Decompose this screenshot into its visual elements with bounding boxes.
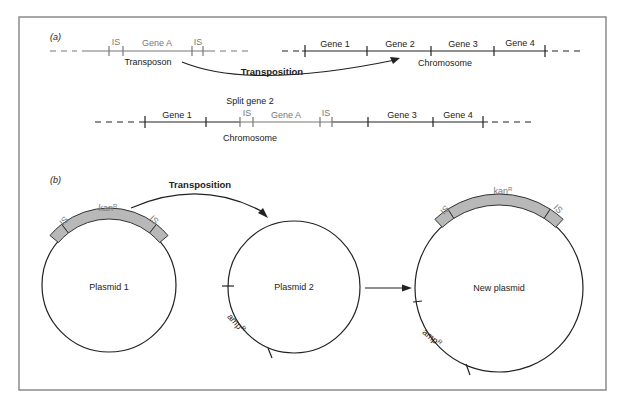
kan-resistance-band — [448, 194, 550, 218]
amp-boundary-tick — [413, 301, 422, 302]
transposon: IS Gene A IS Transposon — [50, 37, 248, 67]
curved-arrow-line — [131, 194, 263, 212]
plasmid-2: Plasmid 2 ampR — [222, 221, 360, 358]
transposon-gene-a-label: Gene A — [142, 38, 172, 48]
transposition-diagram: (a) IS Gene A IS Transposon Gene 1 Gene … — [0, 0, 623, 406]
transposition-arrow-a: Transposition — [182, 57, 400, 77]
arrowhead-icon — [402, 285, 412, 292]
panel-a-label: (a) — [50, 32, 61, 42]
result-is-left-label: IS — [243, 108, 252, 118]
plasmid-1-label: Plasmid 1 — [89, 282, 129, 292]
result-chromosome-caption: Chromosome — [223, 133, 277, 143]
result-arrow — [365, 285, 412, 292]
transposon-is-right-label: IS — [194, 37, 203, 47]
transposition-arrow-b: Transposition — [131, 179, 268, 218]
arrowhead-icon — [390, 57, 400, 64]
result-chromosome: Gene 1 IS Gene A IS Gene 3 Gene 4 Split … — [95, 96, 535, 143]
split-gene-2-caption: Split gene 2 — [226, 96, 274, 106]
transposition-label-a: Transposition — [241, 66, 303, 77]
new-plasmid-amp-label: ampR — [420, 327, 444, 349]
plasmid-2-amp-label: ampR — [225, 312, 247, 335]
new-plasmid-label: New plasmid — [473, 283, 525, 293]
chromosome-gene-2-label: Gene 2 — [385, 39, 415, 49]
plasmid-2-label: Plasmid 2 — [274, 282, 314, 292]
result-is-right-label: IS — [322, 108, 331, 118]
chromosome: Gene 1 Gene 2 Gene 3 Gene 4 Chromosome — [282, 38, 582, 68]
result-gene-4-label: Gene 4 — [443, 110, 473, 120]
chromosome-gene-1-label: Gene 1 — [320, 39, 350, 49]
chromosome-gene-4-label: Gene 4 — [505, 38, 535, 48]
panel-b-label: (b) — [50, 175, 61, 185]
transposon-is-left-label: IS — [112, 37, 121, 47]
result-gene-3-label: Gene 3 — [387, 110, 417, 120]
transposon-caption: Transposon — [124, 57, 171, 67]
result-gene-a-label: Gene A — [271, 110, 301, 120]
plasmid-1: Plasmid 1 kanR IS IS — [42, 203, 176, 352]
result-gene-1-label: Gene 1 — [162, 110, 192, 120]
new-plasmid: New plasmid kanR IS IS ampR — [413, 186, 583, 375]
transposition-label-b: Transposition — [169, 179, 231, 190]
chromosome-gene-3-label: Gene 3 — [448, 39, 478, 49]
chromosome-caption: Chromosome — [418, 58, 472, 68]
